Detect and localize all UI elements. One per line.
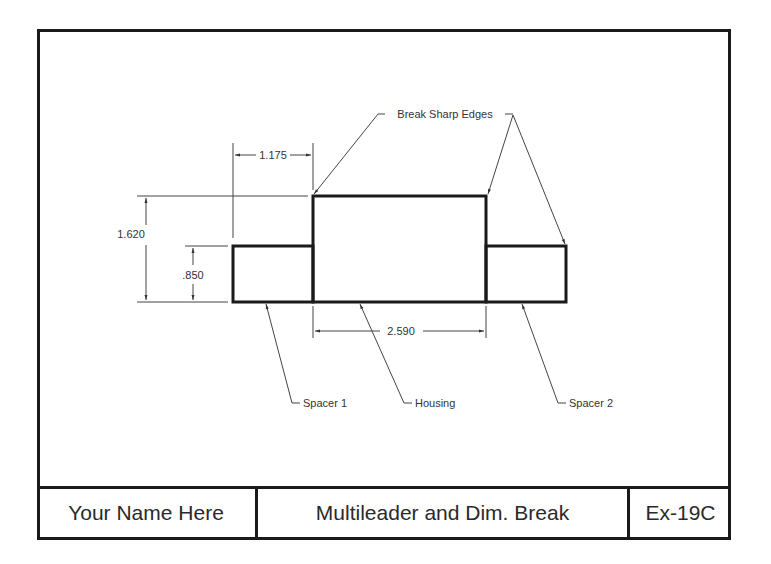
leader-spacer-1 (266, 304, 300, 403)
leader-text-spacer-1: Spacer 1 (303, 397, 347, 409)
drawing-canvas: 1.175 1.620 .850 2.590 (0, 0, 771, 564)
leader-text-break-sharp-edges: Break Sharp Edges (397, 108, 493, 120)
leader-spacer-2 (522, 304, 566, 403)
leader-text-spacer-2: Spacer 2 (569, 397, 613, 409)
dim-text-overall-height: 1.620 (117, 228, 145, 240)
drawing-sheet: 1.175 1.620 .850 2.590 (0, 0, 771, 564)
title-block-number: Ex-19C (630, 489, 731, 537)
part-spacer-1 (233, 246, 313, 302)
dimension-overall-height (137, 196, 308, 302)
title-block-title: Multileader and Dim. Break (258, 489, 630, 537)
leader-housing (360, 304, 412, 403)
title-block: Your Name Here Multileader and Dim. Brea… (37, 486, 731, 537)
dim-text-housing-width: 2.590 (387, 325, 415, 337)
part-housing (313, 196, 486, 302)
part-spacer-2 (486, 246, 566, 302)
leader-text-housing: Housing (415, 397, 455, 409)
dim-text-spacer-height: .850 (182, 269, 203, 281)
dim-text-top-width: 1.175 (259, 149, 287, 161)
leader-break-sharp-edges (314, 114, 565, 244)
title-block-name: Your Name Here (37, 489, 258, 537)
